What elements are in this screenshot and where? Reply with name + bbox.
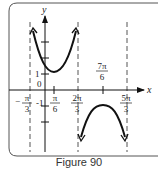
x-label-2pi-3-num: 2π: [72, 93, 82, 103]
y-tick-label-1: 1: [35, 69, 40, 79]
figure-graph: y x 0 1 − π 3 -1 π 6 2π 3 7π 6 5π 3: [0, 0, 158, 169]
figure-caption: Figure 90: [0, 156, 158, 168]
x-axis-label: x: [146, 84, 152, 95]
lower-branch-curve: [81, 105, 125, 137]
x-label-5pi-3-den: 3: [124, 104, 129, 114]
x-label-neg-pi-3-den: 3: [25, 104, 30, 114]
upper-branch-curve: [33, 31, 76, 72]
x-label-neg-pi-3-sign: −: [15, 96, 20, 106]
x-label-5pi-3-num: 5π: [121, 93, 131, 103]
x-label-pi-6-den: 6: [53, 104, 58, 114]
y-axis-label: y: [41, 4, 47, 15]
figure-frame: [9, 3, 158, 156]
x-label-neg-pi-3-num: π: [25, 93, 30, 103]
y-tick-label-neg-1: -1: [36, 98, 44, 108]
origin-label: 0: [37, 79, 42, 89]
x-label-7pi-6-den: 6: [100, 72, 105, 82]
x-label-2pi-3-den: 3: [75, 104, 80, 114]
x-label-7pi-6-num: 7π: [97, 61, 107, 71]
x-label-pi-6-num: π: [53, 93, 58, 103]
